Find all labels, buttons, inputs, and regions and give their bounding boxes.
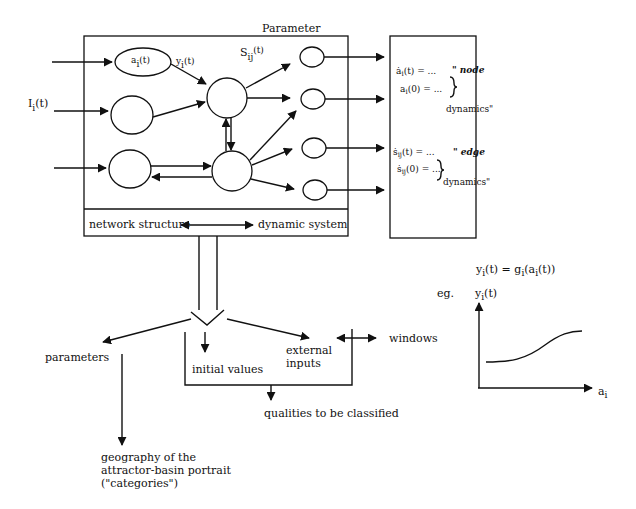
node-center-bottom (212, 151, 252, 191)
node-right-2 (301, 89, 325, 109)
arrow-to-parameters (103, 319, 191, 342)
svg-text:dynamics": dynamics" (443, 177, 490, 187)
network-dynamics-diagram: Parameter Ii(t) ai(t) yi(t) Sij(t) (0, 0, 636, 509)
x-axis-label: ai (598, 385, 608, 400)
svg-text:" node: " node (452, 65, 485, 75)
node-left-3 (109, 150, 151, 188)
node-dynamics-equations: ȧi(t) = ... ai(0) = ... " node dynamics" (396, 65, 493, 114)
svg-text:ȧi(t) = ...: ȧi(t) = ... (396, 66, 436, 78)
qualities-bracket (185, 329, 352, 385)
initial-values-label: initial values (192, 363, 264, 376)
external-inputs-label-2: inputs (286, 357, 321, 370)
node-right-1 (300, 47, 324, 67)
output-arrows (324, 57, 384, 190)
svg-text:ṡij(t) = ...: ṡij(t) = ... (393, 147, 435, 159)
parameter-title: Parameter (262, 22, 321, 35)
svg-text:ai(0) = ...: ai(0) = ... (400, 84, 442, 96)
external-inputs-label-1: external (286, 344, 333, 357)
dynamic-system-label: dynamic system (258, 218, 348, 231)
svg-text:dynamics": dynamics" (446, 104, 493, 114)
input-arrows (52, 62, 112, 168)
node-right-4 (303, 180, 327, 200)
node-right-3 (302, 138, 326, 158)
edge-label-s: Sij(t) (240, 45, 264, 62)
transfer-formula: yi(t) = gi(ai(t)) (475, 263, 555, 278)
eg-label: eg. (437, 287, 454, 300)
geography-label-1: geography of the (101, 451, 196, 464)
node-left-2 (111, 96, 153, 134)
geography-label-3: ("categories") (101, 477, 178, 490)
qualities-label: qualities to be classified (264, 407, 399, 420)
svg-text:" edge: " edge (453, 147, 485, 157)
sigmoid-chart (478, 303, 592, 388)
windows-label: windows (389, 332, 438, 345)
geography-label-2: attractor-basin portrait (101, 464, 231, 477)
arrow-to-external-inputs (227, 319, 309, 338)
sigmoid-curve (486, 331, 582, 362)
input-label: Ii(t) (28, 97, 48, 113)
y-axis-label: yi(t) (474, 287, 497, 302)
hollow-down-arrow (191, 236, 224, 325)
node-center-top (207, 78, 247, 118)
parameters-label: parameters (45, 351, 110, 364)
network-structure-label: network structure (89, 218, 190, 231)
svg-text:ṡij(0) = ...: ṡij(0) = ... (397, 164, 441, 176)
